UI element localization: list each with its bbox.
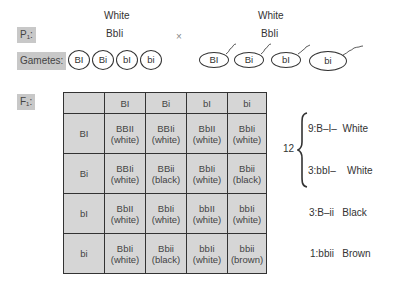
offspring-cell: bbii(brown)	[228, 234, 267, 274]
genotype: BBII	[105, 123, 145, 134]
ratio-item: 9:B–I– White	[308, 123, 368, 134]
phenotype: (black)	[146, 254, 186, 265]
genotype: BbIi	[228, 123, 266, 134]
table-row: Bi BBIi(white) BBii(black) BbIi(white) B…	[64, 154, 267, 194]
column-header: BI	[105, 93, 146, 114]
phenotype: (white)	[187, 174, 227, 185]
row-header: bI	[64, 194, 105, 234]
phenotype: (black)	[146, 174, 186, 185]
offspring-cell: bbIi(white)	[187, 234, 228, 274]
offspring-cell: BBII(white)	[105, 114, 146, 154]
ratio-value: 3:B–ii	[309, 207, 334, 218]
offspring-cell: BbII(white)	[105, 194, 146, 234]
ratio-phenotype: White	[347, 165, 373, 176]
column-header: Bi	[146, 93, 187, 114]
phenotype: (white)	[146, 214, 186, 225]
phenotype: (black)	[228, 174, 266, 185]
phenotype: (white)	[187, 254, 227, 265]
table-row: bI BbII(white) BbIi(white) bbII(white) b…	[64, 194, 267, 234]
phenotype: (white)	[228, 134, 266, 145]
offspring-cell: BbIi(white)	[146, 194, 187, 234]
phenotype: (white)	[228, 214, 266, 225]
genotype: bbIi	[228, 203, 266, 214]
white-group-total: 12	[283, 143, 294, 154]
sperm-tails-icon	[0, 0, 398, 80]
genotype: Bbii	[228, 163, 266, 174]
phenotype: (white)	[105, 174, 145, 185]
ratio-item: 3:B–ii Black	[309, 207, 367, 218]
offspring-cell: BBii(black)	[146, 154, 187, 194]
phenotype: (white)	[187, 214, 227, 225]
genotype: bbII	[187, 203, 227, 214]
punnett-square: BI Bi bI bi BI BBII(white) BBIi(white) B…	[63, 92, 267, 274]
table-row: BI BBII(white) BBIi(white) BbII(white) B…	[64, 114, 267, 154]
offspring-cell: Bbii(black)	[146, 234, 187, 274]
f1-label: F₁:	[17, 94, 35, 110]
genotype: BBIi	[105, 163, 145, 174]
genotype: bbIi	[187, 243, 227, 254]
genotype: BbIi	[187, 163, 227, 174]
phenotype: (brown)	[228, 254, 266, 265]
table-row: bi BbIi(white) Bbii(black) bbIi(white) b…	[64, 234, 267, 274]
phenotype: (white)	[187, 134, 227, 145]
phenotype: (white)	[105, 214, 145, 225]
ratio-phenotype: White	[342, 123, 368, 134]
column-header: bi	[228, 93, 267, 114]
ratio-value: 3:bbI–	[308, 165, 336, 176]
offspring-cell: BbIi(white)	[228, 114, 267, 154]
row-header: bi	[64, 234, 105, 274]
ratio-value: 1:bbii	[310, 248, 334, 259]
genotype: BbII	[105, 203, 145, 214]
column-header: bI	[187, 93, 228, 114]
genotype: bbii	[228, 243, 266, 254]
genotype: BbII	[187, 123, 227, 134]
phenotype: (white)	[105, 254, 145, 265]
row-header: Bi	[64, 154, 105, 194]
ratio-item: 1:bbii Brown	[310, 248, 371, 259]
offspring-cell: Bbii(black)	[228, 154, 267, 194]
header-row: BI Bi bI bi	[64, 93, 267, 114]
genotype: BBii	[146, 163, 186, 174]
ratio-value: 9:B–I–	[308, 123, 337, 134]
corner-cell	[64, 93, 105, 114]
offspring-cell: BBIi(white)	[146, 114, 187, 154]
row-header: BI	[64, 114, 105, 154]
genotype: BBIi	[146, 123, 186, 134]
offspring-cell: bbIi(white)	[228, 194, 267, 234]
phenotype: (white)	[146, 134, 186, 145]
offspring-cell: BbIi(white)	[187, 154, 228, 194]
genotype: Bbii	[146, 243, 186, 254]
offspring-cell: bbII(white)	[187, 194, 228, 234]
phenotype: (white)	[105, 134, 145, 145]
offspring-cell: BbII(white)	[187, 114, 228, 154]
genotype: BbIi	[146, 203, 186, 214]
ratio-item: 3:bbI– White	[308, 165, 373, 176]
ratio-phenotype: Black	[342, 207, 366, 218]
genotype: BbIi	[105, 243, 145, 254]
ratio-phenotype: Brown	[342, 248, 370, 259]
offspring-cell: BBIi(white)	[105, 154, 146, 194]
offspring-cell: BbIi(white)	[105, 234, 146, 274]
